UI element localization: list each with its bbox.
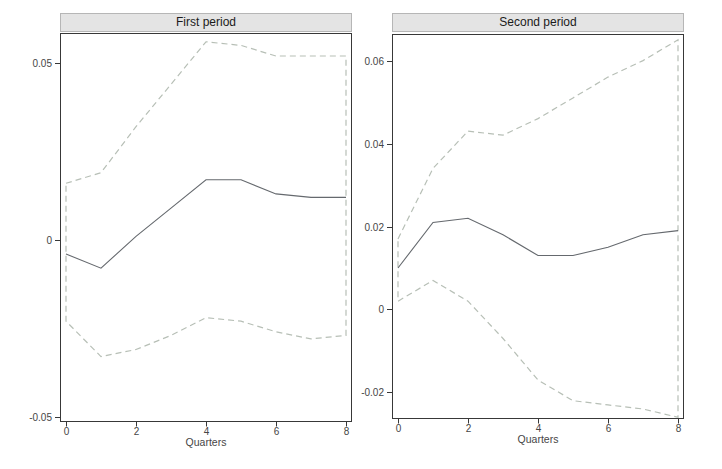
y-tick-label: 0.05: [33, 58, 53, 69]
x-axis-label-second-period: Quarters: [392, 433, 684, 445]
x-tick-label: 2: [134, 426, 140, 437]
impulse-response-line: [398, 218, 678, 268]
plot-border: [393, 35, 684, 419]
y-tick-label: -0.02: [361, 387, 384, 398]
x-axis-label-first-period: Quarters: [60, 436, 352, 448]
chart-canvas-second-period: 0.060.040.020-0.0202468: [347, 22, 699, 467]
panel-title-first-period: First period: [60, 13, 352, 32]
y-tick-label: 0: [46, 235, 52, 246]
y-tick-label: 0.04: [365, 139, 385, 150]
x-tick-label: 4: [204, 426, 210, 437]
x-tick-label: 0: [396, 423, 402, 434]
panel-second-period: Second period 0.060.040.020-0.0202468 Qu…: [0, 0, 722, 469]
chart-canvas-first-period: 0.050-0.0502468: [15, 21, 367, 466]
x-tick-label: 8: [344, 426, 350, 437]
x-tick-label: 2: [466, 423, 472, 434]
plot-border: [61, 34, 352, 422]
confidence-band-outline: [66, 42, 346, 357]
y-tick-label: -0.05: [29, 412, 52, 423]
x-tick-label: 6: [606, 423, 612, 434]
x-tick-label: 8: [676, 423, 682, 434]
confidence-band-outline: [398, 40, 678, 418]
panel-first-period: First period 0.050-0.0502468 Quarters: [0, 0, 722, 469]
impulse-response-line: [66, 180, 346, 268]
x-tick-label: 4: [536, 423, 542, 434]
irf-two-panel-figure: First period 0.050-0.0502468 Quarters Se…: [0, 0, 722, 469]
panel-title-second-period: Second period: [392, 13, 684, 32]
x-tick-label: 6: [274, 426, 280, 437]
y-tick-label: 0.02: [365, 222, 385, 233]
x-tick-label: 0: [64, 426, 70, 437]
y-tick-label: 0: [378, 304, 384, 315]
y-tick-label: 0.06: [365, 56, 385, 67]
